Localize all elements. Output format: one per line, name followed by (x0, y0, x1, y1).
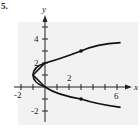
x-axis-label: x (134, 83, 138, 92)
x-tick-label-neg2: -2 (14, 91, 22, 100)
y-axis-label: y (42, 5, 46, 14)
x-tick-label-6: 6 (114, 92, 119, 101)
x-tick-label-2: 2 (67, 74, 72, 83)
y-tick-label-2: 2 (34, 59, 39, 68)
y-tick-label-neg2: -2 (31, 107, 39, 116)
point-3-3 (79, 49, 83, 53)
x-axis-arrow-icon (125, 85, 132, 90)
point-3-neg1 (79, 97, 83, 101)
parabola-chart (0, 0, 140, 129)
y-tick-label-4: 4 (34, 35, 39, 44)
y-axis-arrow-icon (43, 15, 48, 22)
